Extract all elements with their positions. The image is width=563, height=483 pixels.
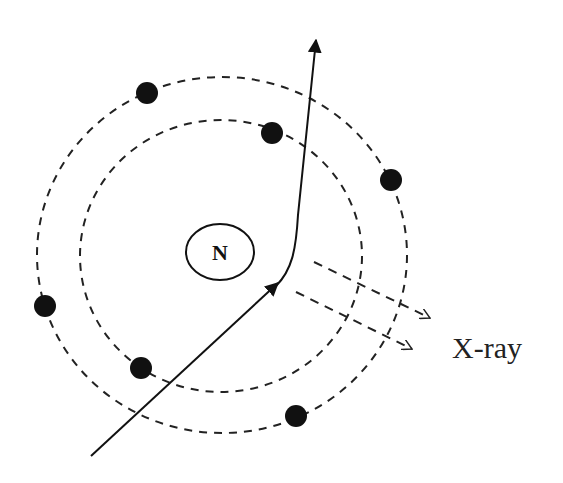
electron [285,405,307,427]
electron [130,357,152,379]
xray-label: X-ray [452,331,522,364]
deflected-particle-arrow [276,40,316,286]
electron [34,295,56,317]
nucleus: N [186,224,254,280]
electron [136,82,158,104]
atom-diagram: N X-ray [0,0,563,483]
electron [380,169,402,191]
xray-arrows [296,262,430,349]
nucleus-label: N [212,240,228,265]
electron [261,122,283,144]
